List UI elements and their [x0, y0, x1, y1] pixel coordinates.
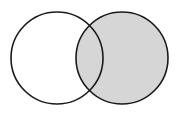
venn-diagram-figure	[0, 0, 180, 118]
venn-diagram-canvas	[0, 0, 180, 118]
